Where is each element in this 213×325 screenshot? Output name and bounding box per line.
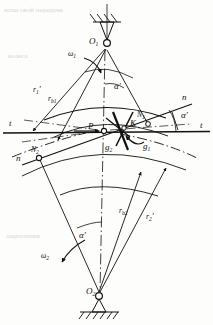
point-n2-marker bbox=[36, 155, 41, 160]
label-tangent-left: t bbox=[9, 118, 12, 128]
label-omega-top: ω1 bbox=[68, 49, 76, 59]
label-omega-bottom: ω2 bbox=[41, 251, 49, 261]
point-n1-marker bbox=[146, 122, 151, 127]
pitch-circle-top bbox=[44, 107, 166, 120]
angle-arc-bottom-alpha bbox=[77, 222, 102, 228]
label-g-one: g1 bbox=[143, 141, 151, 152]
label-radius-top-base: rb1 bbox=[48, 94, 57, 104]
ghost-bleed-text: назы овой передачи колеса зацепления bbox=[4, 6, 63, 240]
label-center-top: O1 bbox=[89, 36, 99, 47]
label-g-two: g2 bbox=[105, 142, 113, 153]
omega-bottom-indicator bbox=[62, 240, 85, 262]
contact-point-cluster bbox=[106, 112, 133, 150]
label-contact-point: K bbox=[129, 118, 137, 128]
g-segment-arrow bbox=[126, 136, 144, 144]
label-tangent-right: t bbox=[200, 120, 203, 130]
gear-meshing-figure: назы овой передачи колеса зацепления O1 … bbox=[0, 0, 213, 325]
label-radius-bottom-pitch: r2′ bbox=[146, 211, 155, 222]
label-radius-top-pitch: r1′ bbox=[33, 84, 42, 95]
radius-bottom-base-line bbox=[99, 172, 141, 292]
radius-bottom-to-n2 bbox=[40, 160, 99, 292]
label-alpha-top: α′ bbox=[114, 81, 122, 91]
ghost-row-2: колеса bbox=[8, 52, 28, 60]
pivot-top bbox=[104, 40, 111, 47]
base-circle-bottom bbox=[22, 154, 186, 176]
angle-arc-bottom-outer bbox=[60, 187, 158, 196]
label-alpha-bottom: α′ bbox=[79, 230, 87, 240]
ghost-row-1: назы овой передачи bbox=[4, 6, 63, 14]
ground-support-bottom bbox=[79, 293, 119, 319]
angle-arc-top-outer bbox=[85, 69, 133, 78]
label-alpha-right: α′ bbox=[181, 110, 189, 120]
label-normal-right: n bbox=[182, 92, 187, 102]
ghost-row-3: зацепления bbox=[6, 232, 41, 240]
label-pitch-point: P bbox=[87, 121, 94, 131]
line-of-action bbox=[22, 104, 192, 165]
label-radius-bottom-base: rb2 bbox=[119, 206, 128, 216]
label-center-bottom: O2 bbox=[86, 286, 96, 297]
omega-top-indicator bbox=[84, 58, 101, 73]
pitch-point-marker bbox=[101, 128, 106, 133]
diagram-canvas: назы овой передачи колеса зацепления O1 … bbox=[0, 0, 213, 325]
angle-leg-right bbox=[172, 112, 178, 130]
